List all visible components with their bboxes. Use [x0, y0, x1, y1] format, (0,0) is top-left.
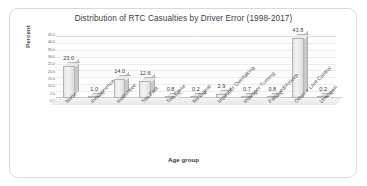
bar-front-face	[292, 38, 304, 98]
y-tick-label: 10.0	[48, 84, 55, 88]
bar-value-label: 2.9	[218, 83, 226, 89]
y-tick-label: 15.0	[48, 77, 55, 81]
y-tick-label: 40.0	[48, 40, 55, 44]
bar-value-label: 12.6	[140, 70, 151, 76]
y-tick-label: 25.0	[48, 62, 55, 66]
bar-value-label: 14.0	[114, 68, 125, 74]
x-axis-title: Age group	[0, 156, 367, 163]
y-axis-title: Percent	[24, 25, 31, 48]
chart-title: Distribution of RTC Casualties by Driver…	[0, 14, 367, 23]
bar-3d-body	[292, 38, 304, 98]
bar-series: 23.01.014.012.60.80.22.90.70.843.80.2	[56, 36, 336, 98]
y-tick-label: 5.0	[50, 92, 55, 96]
bar-value-label: 43.8	[292, 27, 303, 33]
y-tick-label: 20.0	[48, 70, 55, 74]
bar[interactable]: 43.8	[292, 38, 304, 98]
bar-value-label: 23.0	[63, 55, 74, 61]
y-tick-label: 45.0	[48, 33, 55, 37]
y-axis-tick-labels: 45.040.035.030.025.020.015.010.05.00.0	[35, 33, 55, 99]
y-tick-label: 35.0	[48, 48, 55, 52]
y-tick-label: 30.0	[48, 55, 55, 59]
chart-figure: Distribution of RTC Casualties by Driver…	[0, 0, 367, 186]
plot-area: 23.01.014.012.60.80.22.90.70.843.80.2	[56, 36, 336, 98]
x-axis-category-labels: NoneInexperienceInattentiveToo FastToo C…	[56, 100, 336, 155]
